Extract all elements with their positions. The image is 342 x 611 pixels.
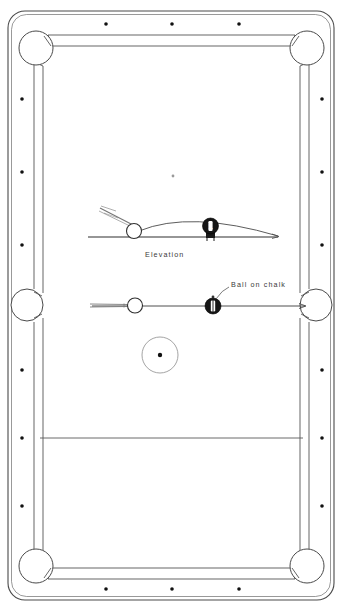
rail-spot-right-2 (320, 170, 324, 174)
rail-spot-top-1 (104, 22, 108, 26)
elevation-object-ball-number: 1 (208, 222, 212, 231)
rail-spot-left-4 (20, 368, 24, 372)
rail-spot-top-2 (170, 22, 174, 26)
rail-spot-right-6 (320, 504, 324, 508)
bottom-right-corner-pocket (290, 549, 324, 583)
rail-spot-right-3 (320, 243, 324, 247)
rail-spot-bottom-3 (237, 587, 241, 591)
table-rails (34, 35, 309, 579)
rail-spot-bottom-2 (170, 587, 174, 591)
top-right-corner-pocket (290, 31, 324, 65)
rail-spot-right-4 (320, 368, 324, 372)
inset-elevation: 1 Elevation (88, 206, 279, 259)
rail-spot-top-3 (237, 22, 241, 26)
plan-object-ball-top-mark (212, 296, 215, 299)
plan-cue-shaft-bottom (90, 307, 128, 308)
centre-spot (158, 353, 162, 357)
table-outer-edge (8, 11, 334, 600)
ball-on-chalk-leader-line (216, 287, 229, 299)
rail-spot-left-6 (20, 504, 24, 508)
inset-ball-on-chalk: Ball on chalk (90, 280, 306, 314)
bottom-left-corner-pocket (19, 549, 53, 583)
rail-spot-left-3 (20, 243, 24, 247)
plan-cue-ball (128, 298, 143, 313)
table-outer-frame (8, 11, 334, 600)
rail-spot-left-2 (20, 170, 24, 174)
billiard-table-diagram: 1 Elevation Ball on chalk (0, 0, 342, 611)
elevation-cue-ball (127, 224, 142, 239)
elevation-label: Elevation (145, 250, 184, 259)
table-pockets (11, 31, 332, 583)
elevation-cue-shaft (100, 208, 133, 225)
elevation-cue-stick (99, 206, 133, 227)
ball-on-chalk-label: Ball on chalk (231, 280, 286, 289)
rail-spot-right-1 (320, 97, 324, 101)
plan-cue-shaft-top (90, 304, 128, 305)
rail-spot-left-5 (20, 436, 24, 440)
rail-spot-bottom-1 (104, 587, 108, 591)
elevation-cue-shaft-edge (99, 211, 132, 227)
table-outer-edge-inner (12, 15, 331, 597)
pyramid-spot (172, 175, 175, 178)
rail-spot-markers (20, 22, 324, 591)
rail-spot-left-1 (20, 97, 24, 101)
top-left-corner-pocket (19, 31, 53, 65)
pocket-mouth-lines (34, 36, 309, 578)
plan-cue-stick (90, 304, 128, 308)
elevation-trajectory-arrowhead (272, 234, 279, 239)
rail-spot-right-5 (320, 436, 324, 440)
